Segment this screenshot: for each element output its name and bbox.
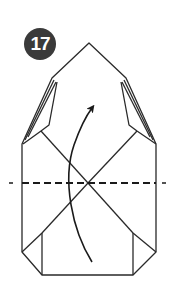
origami-diagram	[0, 0, 172, 293]
